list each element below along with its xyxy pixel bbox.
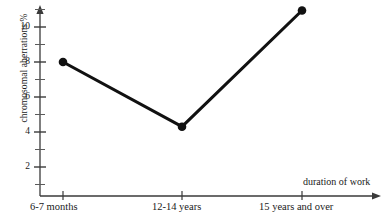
- plot-area: [0, 0, 388, 221]
- x-axis-arrowhead: [372, 192, 381, 199]
- chart-container: chromosomal aberrations % 10 8 6 4 2 6-7…: [0, 0, 388, 221]
- data-point-marker-2: [178, 122, 187, 131]
- data-point-marker-1: [59, 58, 68, 67]
- data-line: [63, 11, 302, 127]
- data-point-marker-3: [298, 6, 307, 15]
